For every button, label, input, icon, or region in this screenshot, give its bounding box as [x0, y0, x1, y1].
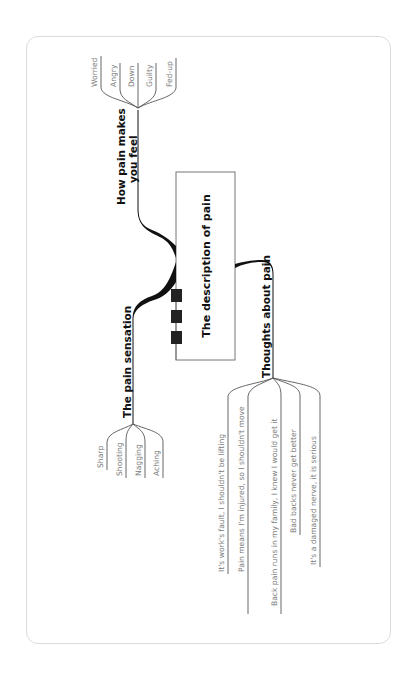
leaf-sharp: Sharp	[96, 446, 105, 468]
leaf-shooting: Shooting	[115, 442, 124, 476]
leaf-thought-5: It's a damaged nerve, it is serious	[309, 436, 318, 565]
leaf-guilty: Guilty	[145, 64, 154, 87]
branch-sensation-title: The pain sensation	[121, 306, 133, 418]
leaf-worried: Worried	[90, 57, 99, 87]
leaf-fed-up: Fed-up	[165, 61, 174, 87]
leaf-thought-3: Back pain runs in my family, I knew I wo…	[270, 418, 279, 606]
branch-feel-title-line1: How pain makes	[115, 108, 127, 205]
center-title: The description of pain	[200, 194, 213, 337]
leaf-thought-4: Bad backs never get better	[289, 428, 298, 533]
leaf-angry: Angry	[109, 64, 118, 87]
leaf-down: Down	[127, 65, 136, 87]
branch-feel-title-line2: you feel	[127, 135, 139, 183]
mind-map: The description of pain How pain makes y…	[0, 0, 417, 685]
leaf-thought-1: It's work's fault, I shouldn't be liftin…	[217, 434, 226, 572]
branch-feel: How pain makes you feel Worried Angry Do…	[90, 56, 176, 258]
leaf-thought-2: Pain means I'm injured, so I shouldn't m…	[237, 406, 246, 572]
branch-thoughts-title: Thoughts about pain	[260, 255, 272, 378]
branch-sensation: The pain sensation Sharp Shooting Naggin…	[96, 262, 176, 478]
leaf-aching: Aching	[152, 450, 161, 476]
leaf-nagging: Nagging	[134, 444, 143, 476]
